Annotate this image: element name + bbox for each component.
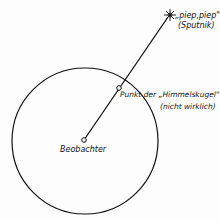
satellite-sublabel: (Sputnik) [178,21,215,30]
diagram-canvas: „piep,piep" (Sputnik) Punkt der „Himmels… [0,0,220,220]
observer-label: Beobachter [60,145,106,154]
satellite-label: „piep,piep" [175,11,220,20]
observer-point [82,138,87,143]
sphere-point-label: Punkt der „Himmelskugel" [120,90,219,99]
sphere-point-sublabel: (nicht wirklich) [160,102,216,111]
